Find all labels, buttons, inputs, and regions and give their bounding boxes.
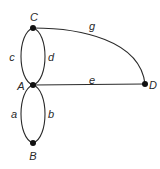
edge-b bbox=[33, 85, 45, 143]
edge-label-g: g bbox=[89, 21, 95, 32]
edge-label-d: d bbox=[48, 52, 54, 63]
node-D bbox=[142, 81, 148, 87]
node-label-A: A bbox=[17, 81, 24, 92]
node-A bbox=[30, 82, 36, 88]
node-B bbox=[30, 140, 36, 146]
node-label-C: C bbox=[30, 12, 38, 23]
edge-label-e: e bbox=[89, 75, 95, 86]
edge-label-c: c bbox=[9, 52, 15, 63]
node-label-B: B bbox=[29, 151, 36, 162]
edge-label-b: b bbox=[48, 109, 54, 120]
edge-d bbox=[33, 28, 45, 85]
node-C bbox=[30, 25, 36, 31]
edge-label-a: a bbox=[11, 109, 17, 120]
node-label-D: D bbox=[149, 80, 157, 91]
edge-c bbox=[21, 28, 33, 85]
edge-a bbox=[21, 85, 33, 143]
graph-diagram: C A B D c d a b e g bbox=[0, 0, 160, 169]
